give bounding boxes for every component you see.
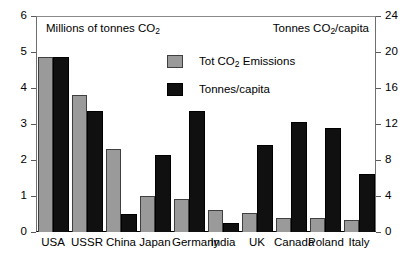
tick-label: 24 (385, 10, 398, 22)
bar-total-emissions (38, 57, 54, 232)
category-label: USSR (70, 236, 104, 248)
category-label: Canada (274, 236, 308, 248)
category-label: USA (36, 236, 70, 248)
bar-group (308, 16, 342, 232)
bar-tonnes-per-capita (53, 57, 69, 232)
bar-group (138, 16, 172, 232)
left-axis-title: Millions of tonnes CO2 (46, 22, 160, 37)
tick-label: 0 (385, 226, 391, 238)
bar-group (104, 16, 138, 232)
bar-group (172, 16, 206, 232)
tick-label: 8 (385, 154, 391, 166)
tick-mark (376, 160, 381, 161)
bar-tonnes-per-capita (325, 128, 341, 232)
bar-group (274, 16, 308, 232)
bar-tonnes-per-capita (359, 174, 375, 232)
category-label: China (104, 236, 138, 248)
bar-total-emissions (72, 95, 88, 232)
tick-label: 4 (385, 190, 391, 202)
bar-total-emissions (276, 218, 292, 232)
left-axis-title-text: Millions of tonnes CO (46, 22, 155, 34)
tick-mark (376, 124, 381, 125)
bar-group (36, 16, 70, 232)
bar-total-emissions (140, 196, 156, 232)
bar-group (240, 16, 274, 232)
tick-label: 2 (21, 154, 27, 166)
bars-layer (36, 16, 376, 232)
bar-group (70, 16, 104, 232)
co2-emissions-bar-chart: 6543210 24201612840 USAUSSRChinaJapanGer… (0, 0, 414, 269)
tick-label: 16 (385, 82, 398, 94)
bar-tonnes-per-capita (121, 214, 137, 232)
legend-label: Tot CO2 Emissions (199, 54, 295, 71)
right-axis-title-text: Tonnes CO (273, 22, 331, 34)
bar-tonnes-per-capita (257, 145, 273, 232)
tick-label: 4 (21, 82, 27, 94)
right-axis-title-suffix: /capita (335, 22, 369, 34)
category-label: Italy (342, 236, 376, 248)
tick-label: 5 (21, 46, 27, 58)
tick-label: 6 (21, 10, 27, 22)
bar-total-emissions (344, 220, 360, 232)
bar-group (342, 16, 376, 232)
bar-total-emissions (174, 199, 190, 232)
bar-tonnes-per-capita (223, 223, 239, 232)
tick-label: 1 (21, 190, 27, 202)
legend-swatch-black (167, 83, 183, 96)
category-label: UK (240, 236, 274, 248)
bar-total-emissions (208, 210, 224, 232)
tick-mark (376, 196, 381, 197)
tick-mark (376, 88, 381, 89)
bar-total-emissions (242, 213, 258, 232)
right-axis-title: Tonnes CO2/capita (273, 22, 369, 37)
tick-mark (376, 16, 381, 17)
tick-label: 3 (21, 118, 27, 130)
tick-mark (376, 52, 381, 53)
bar-group (206, 16, 240, 232)
bar-tonnes-per-capita (291, 122, 307, 232)
tick-label: 0 (21, 226, 27, 238)
tick-label: 20 (385, 46, 398, 58)
bar-tonnes-per-capita (87, 111, 103, 232)
category-label: Japan (138, 236, 172, 248)
tick-label: 12 (385, 118, 398, 130)
category-label: Poland (308, 236, 342, 248)
bar-total-emissions (106, 149, 122, 232)
bar-total-emissions (310, 218, 326, 232)
bar-tonnes-per-capita (155, 155, 171, 232)
category-label: India (206, 236, 240, 248)
category-label: Germany (172, 236, 206, 248)
tick-mark (376, 232, 381, 233)
left-axis-title-subscript: 2 (155, 26, 160, 36)
bar-tonnes-per-capita (189, 111, 205, 233)
legend-swatch-gray (167, 55, 183, 68)
legend-label: Tonnes/capita (199, 82, 270, 96)
